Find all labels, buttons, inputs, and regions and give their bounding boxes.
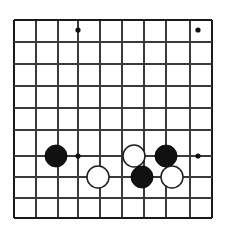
stone-black-upper-right [155, 145, 177, 167]
go-board-canvas [0, 0, 225, 238]
hoshi-top-left [75, 27, 80, 32]
hoshi-bottom-right [195, 153, 200, 158]
hoshi-bottom-left [75, 153, 80, 158]
stone-black-left [45, 145, 67, 167]
go-board-diagram [0, 0, 225, 238]
stone-white-lower-right [161, 166, 183, 188]
stone-white-lower-left [87, 166, 109, 188]
star-points [75, 27, 200, 158]
stone-white-upper [123, 145, 145, 167]
stones-layer [45, 145, 183, 188]
stone-black-lower [131, 166, 153, 188]
hoshi-top-right [195, 27, 200, 32]
grid-lines [14, 20, 212, 218]
